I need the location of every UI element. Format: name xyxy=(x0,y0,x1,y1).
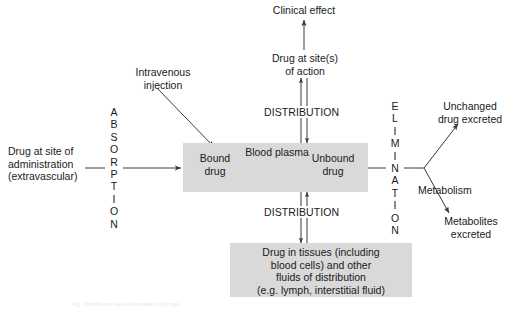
absorption-letter: R xyxy=(107,156,121,168)
absorption-letter: P xyxy=(107,168,121,180)
elimination-letter: M xyxy=(388,137,402,149)
distribution-upper-label: DISTRIBUTION xyxy=(262,106,341,118)
elimination-letter: I xyxy=(388,199,402,211)
elimination-letter: E xyxy=(388,100,402,112)
clinical-effect-label: Clinical effect xyxy=(252,4,356,17)
elimination-letter: O xyxy=(388,212,402,224)
site-of-action-label: Drug at site(s) of action xyxy=(256,52,354,77)
tissues-label: Drug in tissues (including blood cells) … xyxy=(232,246,410,296)
metabolites-label: Metabolites excreted xyxy=(436,215,506,240)
elimination-letter: L xyxy=(388,112,402,124)
pharmacokinetics-diagram: Drug at site of administration (extravas… xyxy=(0,0,508,309)
figure-caption: Fig. Distribution and elimination of dru… xyxy=(72,301,179,307)
absorption-letter: T xyxy=(107,180,121,192)
absorption-letter: O xyxy=(107,205,121,217)
absorption-letter: O xyxy=(107,143,121,155)
absorption-letter: I xyxy=(107,193,121,205)
unchanged-drug-label: Unchanged drug excreted xyxy=(432,100,508,125)
elimination-letter: I xyxy=(388,150,402,162)
elimination-label: E L I M I N A T I O N xyxy=(388,100,402,236)
absorption-letter: B xyxy=(107,118,121,130)
absorption-label: A B S O R P T I O N xyxy=(107,106,121,230)
elimination-letter: N xyxy=(388,162,402,174)
absorption-letter: S xyxy=(107,131,121,143)
unbound-drug-label: Unbound drug xyxy=(300,152,366,177)
elimination-letter: A xyxy=(388,174,402,186)
distribution-lower-label: DISTRIBUTION xyxy=(262,206,341,218)
metabolism-label: Metabolism xyxy=(418,184,488,197)
absorption-letter: N xyxy=(107,218,121,230)
intravenous-injection-label: Intravenous injection xyxy=(120,66,206,91)
elimination-letter: T xyxy=(388,187,402,199)
elimination-letter: N xyxy=(388,224,402,236)
absorption-letter: A xyxy=(107,106,121,118)
elimination-letter: I xyxy=(388,125,402,137)
administration-label: Drug at site of administration (extravas… xyxy=(8,145,92,183)
